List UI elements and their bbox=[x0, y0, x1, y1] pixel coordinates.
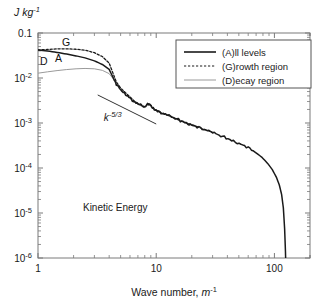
slope-label-exponent: -5/3 bbox=[109, 110, 123, 119]
y-tick-base: 10 bbox=[14, 73, 26, 84]
y-tick-exponent: -5 bbox=[25, 206, 32, 215]
x-tick-label: 10 bbox=[151, 263, 163, 274]
legend-label-2: (G)rowth region bbox=[222, 61, 288, 72]
y-tick-base: 10 bbox=[14, 253, 26, 264]
y-axis-label-text: J kg bbox=[13, 6, 33, 18]
y-tick-base: 10 bbox=[14, 208, 26, 219]
legend-label-1: (A)ll levels bbox=[222, 47, 266, 58]
y-tick-exponent: -3 bbox=[25, 116, 32, 125]
kinetic-energy-spectrum-figure: 1101000.110-210-310-410-510-6k-5/3Kineti… bbox=[0, 0, 325, 303]
y-tick-exponent: -4 bbox=[25, 161, 32, 170]
curve-tag-g: G bbox=[62, 36, 70, 48]
y-tick-label: 10-2 bbox=[14, 71, 32, 84]
y-tick-exponent: -6 bbox=[25, 251, 32, 260]
x-tick-label: 100 bbox=[266, 263, 283, 274]
x-axis-label-exponent: -1 bbox=[210, 285, 217, 294]
y-tick-exponent: -2 bbox=[25, 71, 32, 80]
y-axis-label: J kg-1 bbox=[13, 5, 40, 18]
y-tick-base: 10 bbox=[14, 118, 26, 129]
curve-tag-d: D bbox=[40, 55, 48, 67]
legend-label-3: (D)ecay region bbox=[222, 75, 284, 86]
y-axis-label-exponent: -1 bbox=[33, 5, 40, 14]
y-tick-label: 10-3 bbox=[14, 116, 32, 129]
inner-chart-title: Kinetic Energy bbox=[83, 202, 147, 213]
x-axis-label-unit: m bbox=[201, 286, 210, 298]
curve-tag-a: A bbox=[55, 52, 62, 64]
x-axis-label-prefix: Wave number, bbox=[131, 286, 201, 298]
y-tick-label: 10-5 bbox=[14, 206, 32, 219]
y-tick-base: 10 bbox=[14, 163, 26, 174]
y-tick-label: 10-4 bbox=[14, 161, 32, 174]
x-axis-label: Wave number, m-1 bbox=[131, 285, 217, 298]
legend: (A)ll levels(G)rowth region(D)ecay regio… bbox=[176, 40, 311, 88]
x-tick-label: 1 bbox=[35, 263, 41, 274]
y-tick-label: 0.1 bbox=[18, 28, 32, 39]
chart-svg: 1101000.110-210-310-410-510-6k-5/3Kineti… bbox=[0, 0, 325, 303]
y-tick-label: 10-6 bbox=[14, 251, 32, 264]
